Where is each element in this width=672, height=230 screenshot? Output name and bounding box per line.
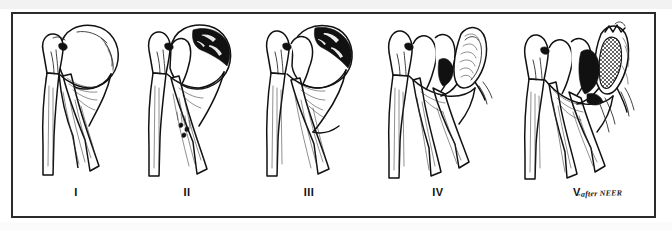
figure-panel-three: III [251, 14, 367, 216]
figure-panel-one: I [23, 14, 129, 216]
scan-band-top [0, 0, 672, 9]
figure-panel-five: V [509, 14, 645, 216]
scan-band-bottom [0, 222, 672, 230]
figure-plate: I [11, 12, 656, 218]
humerus-illustration-four [375, 16, 501, 184]
attribution-note: -after NEER [578, 188, 622, 199]
humerus-illustration-one [23, 16, 129, 184]
panel-row: I [13, 14, 654, 216]
panel-label-two: II [131, 186, 243, 198]
humerus-illustration-five [509, 16, 645, 184]
panel-label-three: III [251, 186, 367, 198]
humerus-illustration-two [131, 16, 243, 184]
figure-panel-two: II [131, 14, 243, 216]
figure-panel-four: IV [375, 14, 501, 216]
panel-label-one: I [23, 186, 129, 198]
panel-label-four: IV [375, 186, 501, 198]
humerus-illustration-three [251, 16, 367, 184]
